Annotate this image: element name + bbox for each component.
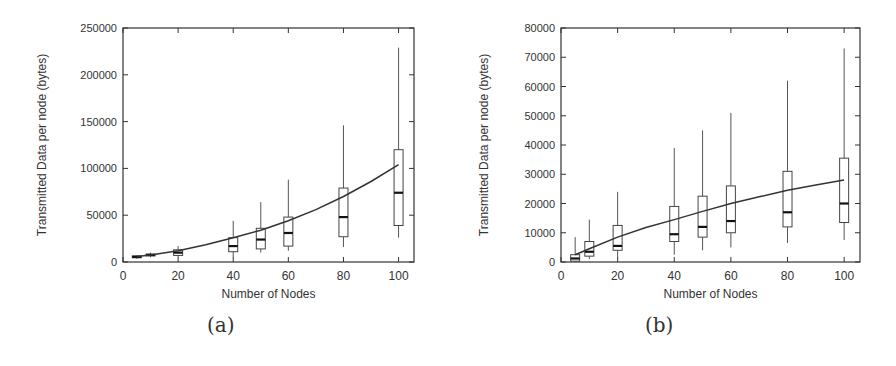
box-60: [284, 180, 293, 251]
x-tick-label: 100: [834, 269, 854, 283]
x-tick-label: 60: [282, 269, 296, 283]
y-axis-label: Transmitted Data per node (bytes): [35, 54, 49, 236]
y-tick-label: 10000: [524, 227, 555, 239]
caption-a: (a): [207, 313, 235, 337]
chart-b: 0100002000030000400005000060000700008000…: [448, 0, 896, 310]
y-tick-label: 50000: [86, 209, 117, 221]
box-40: [670, 148, 679, 255]
y-tick-label: 40000: [524, 139, 555, 151]
x-tick-label: 20: [171, 269, 185, 283]
y-tick-label: 0: [549, 256, 555, 268]
chart-a: 0500001000001500002000002500000204060801…: [0, 0, 448, 310]
box-80: [339, 125, 348, 247]
plot-frame: [561, 28, 860, 262]
y-tick-label: 50000: [524, 110, 555, 122]
box-50: [698, 130, 707, 250]
box: [840, 158, 849, 222]
y-tick-label: 200000: [80, 69, 117, 81]
box: [698, 196, 707, 237]
y-axis-label: Transmitted Data per node (bytes): [477, 54, 491, 236]
box-80: [783, 81, 792, 243]
box-10: [585, 220, 594, 259]
x-axis-label: Number of Nodes: [663, 287, 757, 301]
x-tick-label: 20: [611, 269, 625, 283]
box: [394, 150, 403, 226]
box-100: [394, 48, 403, 238]
x-tick-label: 80: [337, 269, 351, 283]
y-tick-label: 20000: [524, 198, 555, 210]
y-tick-label: 80000: [524, 22, 555, 34]
y-tick-label: 250000: [80, 22, 117, 34]
box: [670, 206, 679, 241]
x-tick-label: 40: [227, 269, 241, 283]
y-tick-label: 150000: [80, 116, 117, 128]
y-tick-label: 30000: [524, 168, 555, 180]
box-5: [571, 237, 580, 262]
fit-curve: [137, 165, 399, 257]
box-20: [613, 192, 622, 259]
box-60: [726, 113, 735, 248]
y-tick-label: 100000: [80, 162, 117, 174]
x-tick-label: 80: [781, 269, 795, 283]
y-tick-label: 70000: [524, 51, 555, 63]
x-tick-label: 100: [389, 269, 409, 283]
box: [726, 186, 735, 233]
x-tick-label: 0: [558, 269, 565, 283]
x-tick-label: 60: [724, 269, 738, 283]
x-tick-label: 0: [120, 269, 127, 283]
box: [783, 171, 792, 227]
x-axis-label: Number of Nodes: [221, 287, 315, 301]
box-50: [256, 202, 265, 253]
x-tick-label: 40: [668, 269, 682, 283]
box-100: [840, 48, 849, 240]
y-tick-label: 0: [111, 256, 117, 268]
box: [229, 238, 238, 252]
y-tick-label: 60000: [524, 81, 555, 93]
caption-b: (b): [645, 313, 673, 337]
